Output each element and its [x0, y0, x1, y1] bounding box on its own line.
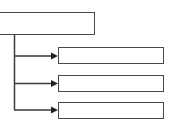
child-node-1	[58, 47, 164, 64]
root-node	[0, 12, 95, 35]
arrowhead-icon	[51, 53, 58, 60]
child-node-2	[58, 75, 164, 92]
child-node-label	[59, 48, 163, 63]
child-node-3	[58, 102, 164, 119]
root-node-label	[0, 13, 94, 34]
arrowhead-icon	[51, 107, 58, 114]
child-node-label	[59, 103, 163, 118]
arrowhead-icon	[51, 80, 58, 87]
child-node-label	[59, 76, 163, 91]
